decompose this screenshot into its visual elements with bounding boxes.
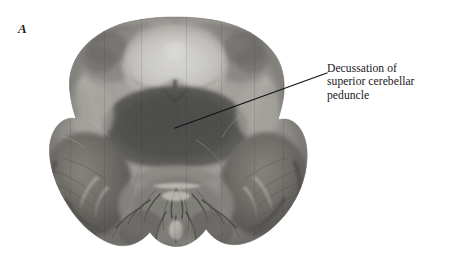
brain-section-image: [0, 0, 453, 256]
annotation-line-2: superior cerebellar: [327, 75, 451, 88]
annotation-line-3: peduncle: [327, 89, 451, 102]
annotation-line-1: Decussation of: [327, 62, 451, 75]
annotation-label: Decussation of superior cerebellar pedun…: [327, 62, 451, 102]
figure-container: A: [0, 0, 453, 256]
specimen-body: [25, 10, 325, 255]
